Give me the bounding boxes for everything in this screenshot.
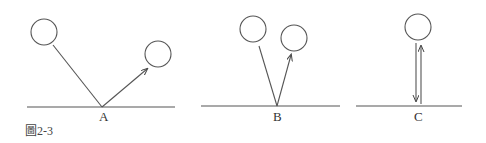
ball-start-a [31, 19, 57, 45]
panel-a: A [27, 19, 175, 124]
panel-label-b: B [273, 109, 282, 124]
panel-label-a: A [99, 109, 109, 124]
ball-end-b [281, 25, 307, 51]
incoming-path-a [53, 45, 102, 107]
panel-label-c: C [414, 109, 423, 124]
ball-end-a [145, 41, 171, 67]
ball-start-b [240, 16, 266, 42]
outgoing-arrow-b [277, 55, 291, 106]
figure-caption: 圖2-3 [25, 124, 53, 138]
reflection-diagram: A B C 圖2-3 [0, 0, 486, 143]
panel-c: C [356, 14, 462, 124]
ball-c [405, 14, 431, 40]
outgoing-arrow-a [102, 69, 147, 107]
incoming-path-b [259, 46, 277, 106]
panel-b: B [201, 16, 340, 124]
